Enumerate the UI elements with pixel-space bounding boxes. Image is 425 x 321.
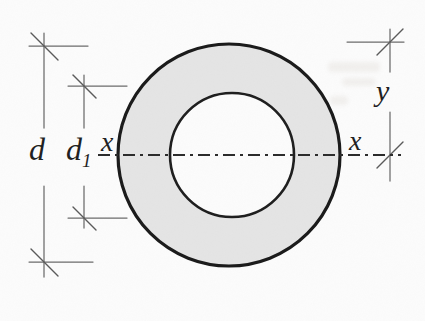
figure-canvas: d d1 x x y [0,0,425,321]
cross-section-figure: d d1 x x y [0,0,425,321]
scan-noise-overlay [0,0,425,321]
